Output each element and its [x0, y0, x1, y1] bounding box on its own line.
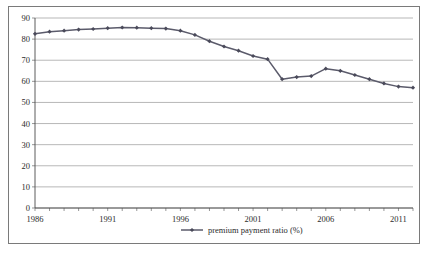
data-point-1987 [47, 30, 51, 34]
y-axis-label-60: 60 [22, 76, 31, 86]
line-chart-svg: 0102030405060708090 19861991199620012006… [9, 7, 421, 245]
data-point-2000 [236, 49, 240, 53]
data-point-1992 [120, 25, 124, 29]
data-point-1995 [164, 26, 168, 30]
series-markers-group [33, 25, 415, 89]
x-axis-label-1991: 1991 [99, 214, 116, 224]
chart-legend: premium payment ratio (%) [181, 225, 303, 235]
y-axis-label-20: 20 [22, 161, 31, 171]
y-axis-label-30: 30 [22, 140, 31, 150]
x-axis-labels-group: 198619911996200120062011 [27, 214, 407, 224]
x-axis-label-1996: 1996 [172, 214, 189, 224]
data-point-1988 [62, 29, 66, 33]
x-axis-label-1986: 1986 [27, 214, 44, 224]
series-line-premium-payment-ratio [35, 28, 413, 88]
x-axis-label-2006: 2006 [317, 214, 334, 224]
y-axis-label-40: 40 [22, 119, 31, 129]
y-axis-label-0: 0 [26, 203, 30, 213]
data-point-2007 [338, 69, 342, 73]
data-point-1989 [77, 28, 81, 32]
data-point-2010 [382, 81, 386, 85]
legend-marker-swatch [190, 228, 194, 232]
data-point-1990 [91, 27, 95, 31]
y-axis-label-50: 50 [22, 97, 31, 107]
data-point-1997 [193, 33, 197, 37]
data-point-2004 [295, 75, 299, 79]
chart-frame: 0102030405060708090 19861991199620012006… [8, 6, 420, 244]
data-point-1993 [135, 26, 139, 30]
data-point-1991 [106, 26, 110, 30]
legend-label: premium payment ratio (%) [208, 225, 303, 235]
data-point-1994 [149, 26, 153, 30]
y-axis-label-80: 80 [22, 34, 31, 44]
legend-diamond [190, 228, 194, 232]
y-axis-labels-group: 0102030405060708090 [22, 13, 31, 213]
y-axis-label-10: 10 [22, 182, 31, 192]
data-point-1999 [222, 44, 226, 48]
data-point-2009 [367, 77, 371, 81]
data-point-1986 [33, 32, 37, 36]
data-point-2001 [251, 54, 255, 58]
chart-plot-area: 0102030405060708090 19861991199620012006… [9, 7, 421, 245]
data-point-2008 [353, 73, 357, 77]
y-axis-label-90: 90 [22, 13, 31, 23]
data-point-2011 [396, 85, 400, 89]
data-point-1996 [178, 29, 182, 33]
data-point-1998 [207, 39, 211, 43]
y-axis-label-70: 70 [22, 55, 31, 65]
x-axis-label-2011: 2011 [390, 214, 407, 224]
data-point-2012 [411, 86, 415, 90]
x-axis-label-2001: 2001 [245, 214, 262, 224]
